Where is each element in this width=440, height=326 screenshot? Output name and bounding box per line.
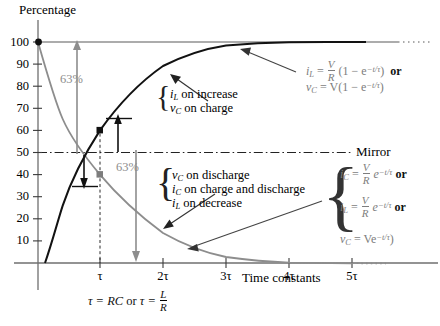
rise-eq2-close: )	[380, 80, 384, 94]
y-tick-label-20: 20	[3, 211, 29, 226]
y-tick-label-100: 100	[3, 35, 29, 50]
x-tick-label-5tau: 5τ	[339, 269, 365, 284]
start-100-point-marker	[35, 39, 42, 46]
rise-63-indicator	[106, 114, 132, 152]
y-tick-label-60: 60	[3, 123, 29, 138]
y-tick-label-10: 10	[3, 233, 29, 248]
rise-ann-2-text: on charge	[181, 101, 233, 115]
rise-eq2-mid: = V(1 − e	[317, 80, 366, 94]
fall-equation-2: iL = VR e−t/τ or	[340, 196, 406, 218]
fall-equation-1: iC = VR e−t/τ or	[340, 163, 407, 185]
rise-annotation-brace: {	[156, 81, 170, 111]
y-tick-label-70: 70	[3, 101, 29, 116]
rise-eq1-close: )	[380, 64, 384, 78]
fall-equation-3: vC = Ve−t/τ)	[340, 230, 394, 250]
rise-equation-2: vC = V(1 − e−t/τ)	[306, 78, 384, 98]
v-over-r-fraction-3: VR	[362, 196, 369, 218]
rise-equation-arrowhead	[240, 47, 251, 55]
fall-eq1-equals: =	[349, 167, 362, 181]
y-tick-label-90: 90	[3, 57, 29, 72]
rise-eq2-exp: −t/τ	[366, 80, 380, 90]
fall-annotation-line-3: iL on decrease	[172, 196, 242, 213]
fall-eq3-exp: −t/τ	[376, 232, 390, 242]
fall-annotation-arrowhead	[163, 220, 174, 229]
x-tick-label-tau: τ	[87, 269, 113, 284]
rise-annotation-arrowhead	[170, 74, 181, 84]
tau-definition-equation: τ = RC or τ = LR	[88, 290, 168, 312]
fall-ann-3-text: on decrease	[180, 196, 242, 210]
x-tick-label-3tau: 3τ	[213, 269, 239, 284]
falling-37-point-marker	[97, 171, 104, 178]
tau-def-part1: τ = RC	[88, 294, 123, 308]
fall-eq3-close: )	[390, 232, 394, 246]
v-over-r-fraction-2: VR	[363, 163, 370, 185]
rise-equation-leader-line	[248, 52, 296, 72]
y-tick-label-30: 30	[3, 189, 29, 204]
tau-def-part2: τ =	[140, 294, 159, 308]
fall-eq2-e: e	[370, 200, 378, 214]
fall-eq1-e: e	[371, 167, 379, 181]
fall-eq3-mid: = Ve	[351, 232, 376, 246]
mirror-label: Mirror	[356, 144, 391, 160]
y-tick-label-50: 50	[3, 145, 29, 160]
pct-63-top-label: 63%	[60, 72, 83, 87]
y-axis-title: Percentage	[19, 2, 76, 18]
rise-eq1-equals: =	[314, 64, 327, 78]
fall-eq2-exp: −t/τ	[378, 200, 392, 210]
tau-def-or: or	[123, 294, 140, 308]
fall-ann-2-text: on charge and discharge	[181, 182, 305, 196]
rise-annotation-line-2: vC on charge	[170, 101, 233, 118]
rising-63-point-marker	[97, 127, 104, 133]
rise-eq1-tail: (1 − e	[336, 64, 367, 78]
rise-ann-1-text: on increase	[178, 87, 238, 101]
pct-63-lower-label: 63%	[116, 160, 139, 175]
y-tick-label-40: 40	[3, 167, 29, 182]
lower-63-arrowhead	[132, 251, 140, 262]
rise-eq1-or: or	[390, 64, 401, 78]
fall-eq1-exp: −t/τ	[379, 167, 393, 177]
x-tick-label-4tau: 4τ	[276, 269, 302, 284]
l-over-r-fraction: LR	[160, 290, 167, 312]
fall-eq2-or: or	[394, 200, 405, 214]
x-tick-label-2tau: 2τ	[150, 269, 176, 284]
fall-eq2-equals: =	[348, 200, 361, 214]
fall-ann-1-text: on discharge	[183, 168, 249, 182]
rise-eq1-exp: −t/τ	[367, 64, 381, 74]
fall-eq1-or: or	[395, 167, 406, 181]
y-tick-label-80: 80	[3, 79, 29, 94]
